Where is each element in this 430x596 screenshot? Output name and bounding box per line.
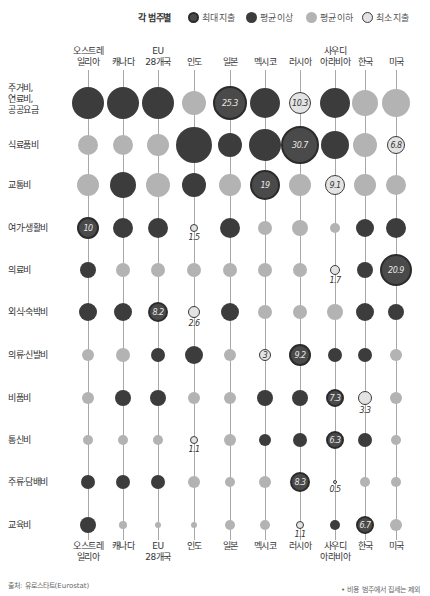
value-label: 19 — [260, 181, 269, 190]
bubble — [221, 303, 239, 321]
bubble — [225, 477, 235, 487]
bubble — [151, 475, 165, 489]
bubble — [293, 263, 307, 277]
bubble — [333, 480, 337, 484]
bubble — [320, 88, 350, 118]
bubble — [293, 433, 307, 447]
bubble — [115, 390, 131, 406]
value-label: 20.9 — [388, 266, 404, 275]
bubble: 8.2 — [148, 302, 168, 322]
bubble — [353, 133, 377, 157]
value-label: 8.2 — [152, 308, 163, 317]
bubble — [191, 522, 197, 528]
category-label: 의류·신발비 — [8, 350, 48, 361]
legend-item-min: 최소 지출 — [362, 10, 408, 24]
bubble — [357, 262, 373, 278]
bubble: 3 — [259, 349, 271, 361]
bubble — [260, 520, 270, 530]
bubble — [388, 304, 404, 320]
value-label: 1.1 — [188, 445, 199, 454]
bubble — [258, 221, 272, 235]
bubble — [224, 349, 236, 361]
legend-label: 최대 지출 — [202, 11, 234, 24]
value-label: 1.1 — [294, 530, 305, 539]
bubble — [116, 348, 130, 362]
bubble — [83, 435, 93, 445]
bubble — [185, 346, 203, 364]
category-label: 교통비 — [8, 180, 31, 191]
bubble — [118, 435, 128, 445]
bubble — [258, 305, 272, 319]
bubble — [107, 87, 139, 119]
legend-item-above: 평균 이상 — [246, 10, 292, 24]
category-label: 비품비 — [8, 393, 31, 404]
value-label: 10 — [83, 224, 92, 233]
bubble — [292, 390, 308, 406]
bubble — [356, 219, 374, 237]
bubble — [292, 220, 308, 236]
bubble — [391, 435, 401, 445]
bubble — [257, 390, 273, 406]
bubble — [224, 392, 236, 404]
bubble: 6.3 — [326, 431, 344, 449]
bubble — [146, 173, 170, 197]
bubble: 6.7 — [356, 516, 374, 534]
bubble — [289, 174, 311, 196]
bubble — [391, 477, 401, 487]
source-note: 출처: 유로스타트(Eurostat) — [8, 580, 89, 590]
bubble — [77, 174, 99, 196]
bubble — [293, 305, 307, 319]
bubble — [330, 265, 340, 275]
bubble — [190, 436, 198, 444]
legend-label: 평균 이상 — [260, 11, 292, 24]
bubble — [114, 303, 132, 321]
category-label: 주류·담배비 — [8, 477, 48, 488]
bubble — [259, 476, 271, 488]
bubble — [176, 127, 212, 163]
bubble — [358, 433, 372, 447]
bubble — [182, 173, 206, 197]
bubble — [110, 172, 136, 198]
bubble: 19 — [250, 170, 280, 200]
bubble — [225, 520, 235, 530]
bubble — [296, 521, 304, 529]
bubble — [360, 477, 370, 487]
bubble — [390, 349, 402, 361]
bubble — [150, 390, 166, 406]
bubble — [356, 303, 374, 321]
bubble — [382, 89, 410, 117]
bubble — [72, 87, 104, 119]
bubble — [187, 263, 201, 277]
bubble: 9.2 — [289, 344, 311, 366]
value-label: 30.7 — [292, 141, 308, 150]
bubble — [113, 218, 133, 238]
bubble: 7.3 — [326, 389, 344, 407]
legend-item-below: 평균 이하 — [306, 10, 352, 24]
value-label: 1.7 — [329, 276, 340, 285]
value-label: 25.3 — [222, 99, 238, 108]
category-label: 여가·생활비 — [8, 223, 48, 234]
bubble — [155, 522, 161, 528]
bubble — [182, 91, 206, 115]
bubble — [151, 348, 165, 362]
bubble — [218, 133, 242, 157]
bubble — [148, 218, 168, 238]
bubble — [78, 135, 98, 155]
bubble — [116, 263, 130, 277]
bubble: 10 — [77, 217, 99, 239]
bubble — [190, 224, 198, 232]
bubble — [259, 434, 271, 446]
bubble — [147, 134, 169, 156]
category-label: 교육비 — [8, 520, 31, 531]
bubble — [358, 348, 372, 362]
bubble — [250, 88, 280, 118]
value-label: 1.5 — [188, 233, 199, 242]
bubble — [188, 392, 200, 404]
legend-item-max: 최대 지출 — [188, 10, 234, 24]
bubble — [321, 131, 349, 159]
legend-label: 평균 이하 — [320, 11, 352, 24]
bubble — [386, 175, 406, 195]
bubble: 10.3 — [289, 92, 311, 114]
value-label: 8.3 — [294, 478, 305, 487]
bubble: 9.1 — [325, 175, 345, 195]
